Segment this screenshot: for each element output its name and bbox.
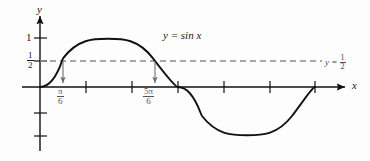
fraction-numerator: 1 bbox=[27, 51, 34, 60]
y-axis-label: y bbox=[37, 4, 42, 15]
dashed-line-label-prefix: y = bbox=[325, 57, 337, 67]
x-tick-label-five-pi-over-6: 5π 6 bbox=[143, 87, 154, 106]
y-tick-label-one: 1 bbox=[26, 32, 32, 43]
fraction-denominator: 2 bbox=[340, 62, 346, 71]
fraction-numerator: π bbox=[57, 87, 64, 96]
fraction-one-half: 1 2 bbox=[27, 51, 34, 70]
fraction-numerator: 5π bbox=[143, 87, 154, 96]
y-tick-label-half: 1 2 bbox=[27, 51, 34, 70]
curve-label: y = sin x bbox=[163, 30, 201, 41]
dashed-line-label: y = 1 2 bbox=[325, 54, 346, 71]
fraction-pi-over-6: π 6 bbox=[57, 87, 64, 106]
fraction-denominator: 2 bbox=[27, 60, 34, 70]
fraction-denominator: 6 bbox=[57, 96, 64, 106]
sine-graph-figure: y x 1 1 2 y = sin x π 6 5π 6 y = 1 2 bbox=[0, 0, 370, 161]
fraction-five-pi-over-6: 5π 6 bbox=[143, 87, 154, 106]
x-axis-label: x bbox=[352, 80, 357, 91]
fraction-numerator: 1 bbox=[340, 54, 346, 62]
fraction-one-half: 1 2 bbox=[340, 54, 346, 71]
plot-canvas bbox=[0, 0, 370, 161]
x-tick-label-pi-over-6: π 6 bbox=[57, 87, 64, 106]
fraction-denominator: 6 bbox=[143, 96, 154, 106]
